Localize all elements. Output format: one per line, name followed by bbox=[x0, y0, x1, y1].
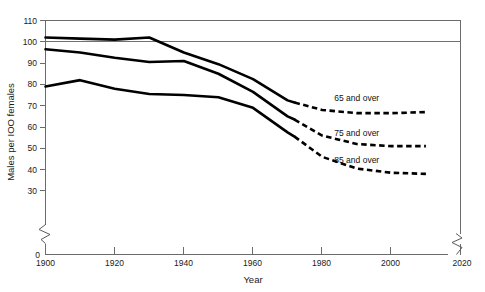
ytick-label-110: 110 bbox=[23, 16, 37, 26]
series-65-and-over-dashed bbox=[295, 103, 426, 114]
series-label-85-and-over: 85 and over bbox=[334, 155, 379, 165]
xtick-label-1920: 1920 bbox=[105, 258, 124, 268]
xtick-label-1900: 1900 bbox=[36, 258, 55, 268]
x-axis-title: Year bbox=[243, 274, 262, 285]
y-tick-labels: 110 100 90 80 70 60 50 40 30 0 bbox=[23, 16, 40, 260]
series-labels: 65 and over 75 and over 85 and over bbox=[334, 93, 379, 165]
ytick-label-40: 40 bbox=[28, 165, 38, 175]
y-axis-break-icon bbox=[39, 225, 50, 244]
series-label-75-and-over: 75 and over bbox=[334, 128, 379, 138]
chart-container: 110 100 90 80 70 60 50 40 30 0 1900 1920… bbox=[0, 0, 485, 292]
xtick-label-2000: 2000 bbox=[381, 258, 400, 268]
series-lines bbox=[46, 38, 426, 174]
x-axis-ticks bbox=[46, 247, 391, 255]
ytick-label-80: 80 bbox=[28, 79, 38, 89]
ytick-label-100: 100 bbox=[23, 37, 37, 47]
ytick-label-50: 50 bbox=[28, 143, 38, 153]
xtick-label-1940: 1940 bbox=[174, 258, 193, 268]
xtick-label-2020: 2020 bbox=[453, 258, 472, 268]
series-75-and-over-solid bbox=[46, 49, 295, 119]
xtick-label-1960: 1960 bbox=[243, 258, 262, 268]
y-axis-ticks bbox=[40, 21, 46, 191]
series-label-65-and-over: 65 and over bbox=[334, 93, 379, 103]
xtick-label-1980: 1980 bbox=[312, 258, 331, 268]
x-tick-labels: 1900 1920 1940 1960 1980 2000 2020 bbox=[36, 258, 472, 268]
ytick-label-30: 30 bbox=[28, 186, 38, 196]
ytick-label-90: 90 bbox=[28, 58, 38, 68]
y-axis-title: Males per IOO females bbox=[5, 83, 16, 181]
ytick-label-60: 60 bbox=[28, 122, 38, 132]
series-65-and-over-solid bbox=[46, 38, 295, 103]
ytick-label-70: 70 bbox=[28, 101, 38, 111]
line-chart: 110 100 90 80 70 60 50 40 30 0 1900 1920… bbox=[0, 0, 485, 292]
series-85-and-over-solid bbox=[46, 80, 295, 136]
